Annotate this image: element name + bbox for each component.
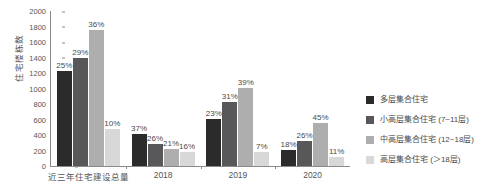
legend-label: 多层集合住宅	[380, 96, 428, 104]
bar-value-label: 45%	[313, 114, 329, 122]
bar[interactable]: 21%	[164, 149, 179, 166]
bar-value-label: 26%	[147, 135, 163, 143]
y-tick-label: 1000	[29, 84, 46, 93]
bar[interactable]: 16%	[180, 152, 195, 166]
x-tick-mark	[126, 166, 127, 169]
x-tick-label: 2018	[154, 170, 173, 180]
y-tick-label: 0	[42, 162, 46, 171]
legend-label: 高层集合住宅 (＞18层)	[380, 156, 460, 164]
bar-value-label: 21%	[163, 140, 179, 148]
bar-group: 37%26%21%16%	[132, 11, 195, 166]
x-tick-mark	[201, 166, 202, 169]
legend-swatch-icon	[366, 116, 374, 124]
bar[interactable]: 45%	[313, 123, 328, 166]
bar[interactable]: 31%	[222, 102, 237, 166]
bar[interactable]: 29%	[73, 58, 88, 167]
bar[interactable]: 36%	[89, 30, 104, 166]
legend-swatch-icon	[366, 96, 374, 104]
legend-item[interactable]: 高层集合住宅 (＞18层)	[366, 150, 503, 170]
legend-item[interactable]: 多层集合住宅	[366, 90, 503, 110]
y-tick-label: 1400	[29, 53, 46, 62]
bar[interactable]: 25%	[57, 71, 72, 166]
y-tick-label: 2000	[29, 7, 46, 16]
bar-value-label: 31%	[222, 93, 238, 101]
bar-value-label: 18%	[281, 141, 297, 149]
bar-group: 23%31%39%7%	[206, 11, 269, 166]
bar-value-label: 25%	[56, 62, 72, 70]
bar-value-label: 10%	[104, 120, 120, 128]
bar[interactable]: 39%	[238, 88, 253, 166]
plot-area: 25%29%36%10%37%26%21%16%23%31%39%7%18%26…	[51, 11, 350, 166]
y-tick-label: 800	[33, 100, 46, 109]
legend-swatch-icon	[366, 156, 374, 164]
legend-label: 小高层集合住宅 (7~11层)	[380, 116, 469, 124]
x-tick-label: 近三年住宅建设总量	[48, 170, 129, 182]
bar-group: 18%26%45%11%	[281, 11, 344, 166]
x-tick-label: 2020	[303, 170, 322, 180]
bar-value-label: 16%	[179, 143, 195, 151]
y-tick-label: 600	[33, 115, 46, 124]
bar-chart: 住宅楼栋数 2000180016001400120010008006004002…	[0, 0, 503, 192]
bar-group: 25%29%36%10%	[57, 11, 120, 166]
bar-value-label: 23%	[206, 110, 222, 118]
bar-value-label: 37%	[131, 125, 147, 133]
bar-value-label: 29%	[72, 49, 88, 57]
y-tick-label: 400	[33, 131, 46, 140]
bar[interactable]: 26%	[148, 144, 163, 166]
y-tick-label: 1600	[29, 38, 46, 47]
bar[interactable]: 10%	[105, 129, 120, 166]
bar[interactable]: 7%	[254, 152, 269, 166]
legend-swatch-icon	[366, 136, 374, 144]
bar[interactable]: 18%	[281, 150, 296, 166]
y-tick-label: 1200	[29, 69, 46, 78]
bar-value-label: 26%	[297, 132, 313, 140]
legend-item[interactable]: 中高层集合住宅 (12~18层)	[366, 130, 503, 150]
bar-value-label: 7%	[256, 143, 268, 151]
bar-value-label: 11%	[329, 148, 344, 156]
legend-item[interactable]: 小高层集合住宅 (7~11层)	[366, 110, 503, 130]
bar-value-label: 39%	[238, 79, 254, 87]
bar[interactable]: 23%	[206, 119, 221, 166]
bar-value-label: 36%	[88, 21, 104, 29]
bar[interactable]: 11%	[329, 157, 344, 166]
y-tick-label: 200	[33, 146, 46, 155]
bar[interactable]: 26%	[297, 141, 312, 166]
y-axis-tick-labels: 2000180016001400120010008006004002000	[16, 0, 46, 175]
x-tick-mark	[275, 166, 276, 169]
legend-label: 中高层集合住宅 (12~18层)	[380, 136, 474, 144]
x-tick-label: 2019	[228, 170, 247, 180]
bar[interactable]: 37%	[132, 134, 147, 166]
legend: 多层集合住宅小高层集合住宅 (7~11层)中高层集合住宅 (12~18层)高层集…	[366, 90, 503, 170]
y-tick-label: 1800	[29, 22, 46, 31]
